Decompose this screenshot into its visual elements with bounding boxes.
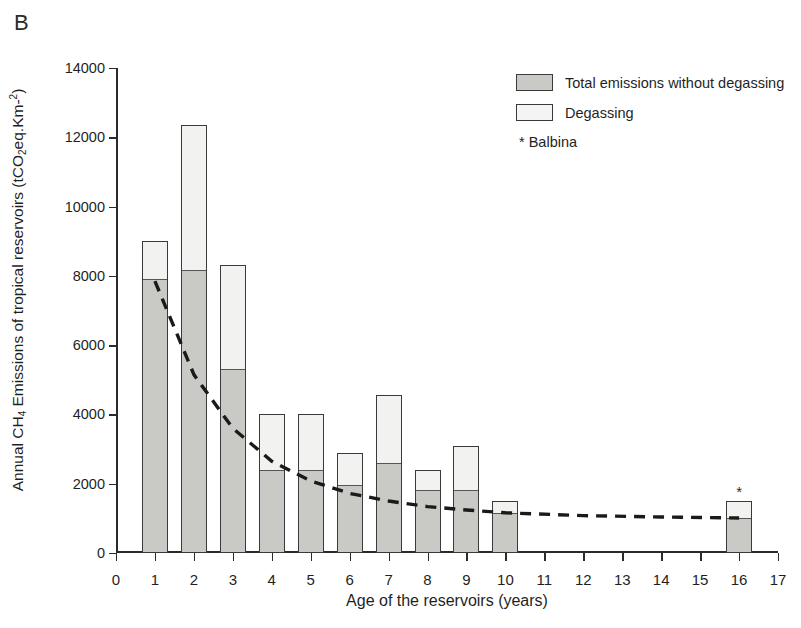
y-axis-tick-label: 6000 [73,337,105,353]
y-axis-title-part1: Annual CH [9,416,26,491]
y-axis-tick-label: 10000 [65,199,105,215]
bar [181,125,207,553]
bar-segment-total-emissions [416,490,440,552]
y-axis-tick-label: 2000 [73,476,105,492]
y-axis-tick-label: 12000 [65,129,105,145]
bar [142,241,168,553]
bar-segment-total-emissions [377,463,401,552]
bar-segment-total-emissions [454,490,478,552]
x-axis-tick [544,553,545,561]
legend-label-total-emissions: Total emissions without degassing [565,75,784,91]
y-axis-tick-label: 4000 [73,406,105,422]
bar [415,470,441,553]
bar [726,501,752,553]
x-axis-tick-label: 10 [497,571,514,588]
bar [259,414,285,553]
y-axis-tick [109,276,116,277]
x-axis-tick-label: 4 [268,571,276,588]
x-axis-tick-label: 13 [614,571,631,588]
x-axis-tick [661,553,662,561]
bar-segment-total-emissions [221,369,245,552]
x-axis-tick [194,553,195,561]
x-axis-tick [350,553,351,561]
x-axis-tick [116,553,117,561]
x-axis-tick-label: 11 [537,571,553,588]
bar [298,414,324,553]
bar [492,501,518,553]
x-axis-tick [311,553,312,561]
legend-swatch-gray-icon [516,74,553,91]
y-axis-title-sup1: 2 [8,94,19,100]
bar-segment-total-emissions [493,513,517,552]
y-axis-title: Annual CH4 Emissions of tropical reservo… [0,0,36,580]
y-axis-tick [109,553,116,554]
bar [453,446,479,553]
bar [220,265,246,553]
bar-segment-total-emissions [260,470,284,552]
y-axis-tick-label: 14000 [65,60,105,76]
x-axis-tick-label: 0 [112,571,120,588]
legend-note-balbina: * Balbina [516,134,784,150]
x-axis-tick [428,553,429,561]
x-axis-title: Age of the reservoirs (years) [116,592,778,610]
y-axis-tick [109,414,116,415]
bar-segment-total-emissions [299,470,323,552]
x-axis-tick [505,553,506,561]
y-axis-title-sub1: 4 [17,411,28,417]
legend-label-degassing: Degassing [565,105,634,121]
x-axis-tick [778,553,779,561]
bar-segment-total-emissions [338,485,362,552]
x-axis-tick [155,553,156,561]
x-axis-tick [622,553,623,561]
y-axis-line [116,68,118,553]
y-axis-tick [109,137,116,138]
x-axis-tick-label: 16 [731,571,748,588]
y-axis-tick [109,484,116,485]
y-axis-tick-label: 8000 [73,268,105,284]
x-axis-tick-label: 3 [229,571,237,588]
legend-item-degassing: Degassing [516,104,784,121]
x-axis-tick [583,553,584,561]
y-axis-tick [109,207,116,208]
y-axis-tick [109,68,116,69]
legend-item-total-emissions: Total emissions without degassing [516,74,784,91]
x-axis-tick-label: 1 [151,571,159,588]
x-axis-tick-label: 6 [345,571,353,588]
y-axis-tick [109,345,116,346]
x-axis-tick-label: 9 [462,571,470,588]
x-axis-line [116,551,778,553]
y-axis-title-sub2: 2 [17,149,28,155]
legend-swatch-white-icon [516,104,553,121]
y-axis-title-part2: Emissions of tropical reservoirs (tCO [9,155,26,411]
bar-segment-total-emissions [182,270,206,552]
x-axis-tick-label: 2 [190,571,198,588]
y-axis-tick-label: 0 [97,545,105,561]
x-axis-tick-label: 14 [653,571,670,588]
bar [337,453,363,553]
bar [376,395,402,553]
x-axis-tick-label: 8 [423,571,431,588]
y-axis-title-part3: eq.Km- [9,99,26,149]
x-axis-tick [700,553,701,561]
y-axis-title-part4: ) [9,89,26,94]
x-axis-tick-label: 15 [692,571,709,588]
bar-segment-total-emissions [727,518,751,552]
x-axis-tick [272,553,273,561]
x-axis-tick [739,553,740,561]
x-axis-tick [466,553,467,561]
x-axis-tick [233,553,234,561]
bar-segment-total-emissions [143,279,167,552]
x-axis-tick [389,553,390,561]
balbina-star-marker: * [736,484,742,499]
x-axis-tick-label: 5 [307,571,315,588]
x-axis-tick-label: 7 [384,571,392,588]
x-axis-tick-label: 12 [575,571,592,588]
legend: Total emissions without degassing Degass… [516,74,784,150]
x-axis-tick-label: 17 [770,571,787,588]
